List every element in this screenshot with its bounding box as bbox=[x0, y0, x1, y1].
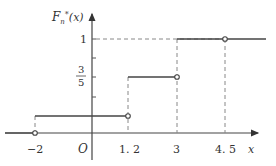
step-lines bbox=[5, 39, 266, 133]
x-tick-label-4-5: 4. 5 bbox=[215, 143, 236, 156]
open-points bbox=[33, 37, 228, 136]
x-tick-label-1-2: 1. 2 bbox=[119, 143, 140, 156]
x-axis-label: x bbox=[248, 143, 255, 156]
x-tick-label-3: 3 bbox=[173, 143, 180, 156]
plot-canvas: Fn*(x) 1 3 5 −2 O 1. 2 3 4. 5 x bbox=[0, 0, 276, 166]
y-tick-label-1: 1 bbox=[80, 33, 87, 46]
x-tick-label-neg2: −2 bbox=[27, 143, 43, 156]
origin-label: O bbox=[78, 142, 88, 156]
step-function-figure: Fn*(x) 1 3 5 −2 O 1. 2 3 4. 5 x bbox=[0, 0, 276, 166]
dashed-guides bbox=[35, 39, 225, 133]
y-tick-label-3-5-num: 3 bbox=[78, 64, 84, 75]
y-axis-label: Fn*(x) bbox=[51, 10, 84, 26]
y-tick-label-3-5-den: 5 bbox=[78, 77, 84, 88]
